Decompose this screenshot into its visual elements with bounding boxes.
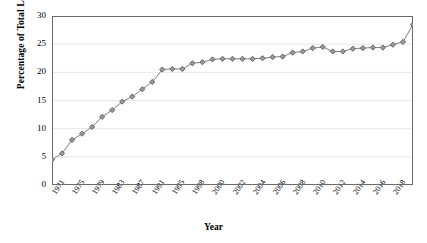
y-tick-0: 0 [24, 179, 46, 189]
data-point [260, 56, 265, 61]
data-point [290, 50, 295, 55]
data-point [370, 45, 375, 50]
data-point [210, 57, 215, 62]
data-point [280, 54, 285, 59]
data-point [340, 49, 345, 54]
data-point [270, 55, 275, 60]
data-point [350, 46, 355, 51]
data-point [380, 45, 385, 50]
data-point [330, 49, 335, 54]
line-chart-svg [52, 16, 413, 185]
data-point [170, 66, 175, 71]
data-point [220, 56, 225, 61]
plot-area [52, 16, 413, 185]
data-line [52, 24, 413, 159]
data-point [390, 42, 395, 47]
data-point [410, 22, 413, 27]
y-tick-10: 10 [24, 123, 46, 133]
data-point [250, 56, 255, 61]
y-tick-20: 20 [24, 66, 46, 76]
data-point [180, 66, 185, 71]
data-point [300, 49, 305, 54]
data-point [320, 44, 325, 49]
y-tick-5: 5 [24, 151, 46, 161]
y-tick-15: 15 [24, 95, 46, 105]
data-point [200, 60, 205, 65]
data-point [190, 61, 195, 66]
x-axis-title: Year [0, 222, 427, 232]
chart-container: Percentage of Total Legislators Year 051… [0, 0, 427, 243]
data-point [240, 56, 245, 61]
y-tick-25: 25 [24, 38, 46, 48]
data-point [230, 56, 235, 61]
y-tick-30: 30 [24, 10, 46, 20]
data-point [310, 46, 315, 51]
data-point [360, 46, 365, 51]
